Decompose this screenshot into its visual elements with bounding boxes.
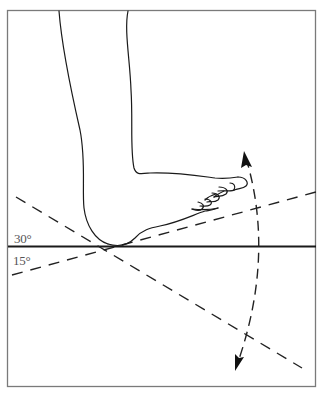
foot-outline	[59, 11, 247, 245]
angle-label-30: 30°	[14, 232, 31, 245]
figure-frame	[8, 11, 316, 387]
foot-range-of-motion-diagram	[0, 0, 323, 393]
arrow-up-icon	[241, 151, 252, 168]
dashed-line-15-degrees	[12, 192, 316, 275]
dashed-line-30-degrees	[16, 197, 302, 368]
angle-label-15: 15°	[13, 254, 30, 267]
